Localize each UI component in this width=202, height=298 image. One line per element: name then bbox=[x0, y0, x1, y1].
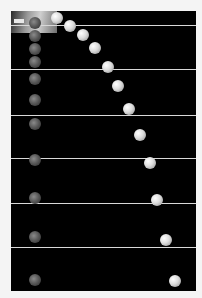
reference-line bbox=[11, 115, 196, 116]
dropped-ball bbox=[29, 30, 41, 42]
projected-ball bbox=[89, 42, 101, 54]
dropped-ball bbox=[29, 94, 41, 106]
projected-ball bbox=[77, 29, 89, 41]
projected-ball bbox=[151, 194, 163, 206]
dropped-ball bbox=[29, 56, 41, 68]
dropped-ball bbox=[29, 192, 41, 204]
reference-line bbox=[11, 247, 196, 248]
dropped-ball bbox=[29, 274, 41, 286]
projected-ball bbox=[144, 157, 156, 169]
dropped-ball bbox=[29, 231, 41, 243]
dropped-ball bbox=[29, 17, 41, 29]
projected-ball bbox=[169, 275, 181, 287]
projected-ball bbox=[102, 61, 114, 73]
projected-ball bbox=[134, 129, 146, 141]
projected-ball bbox=[51, 12, 63, 24]
projected-ball bbox=[160, 234, 172, 246]
dropped-ball bbox=[29, 118, 41, 130]
reference-line bbox=[11, 203, 196, 204]
launcher-label-mark bbox=[14, 19, 24, 23]
projected-ball bbox=[112, 80, 124, 92]
strobe-photo bbox=[11, 11, 196, 291]
projected-ball bbox=[123, 103, 135, 115]
dropped-ball bbox=[29, 43, 41, 55]
dropped-ball bbox=[29, 154, 41, 166]
projected-ball bbox=[64, 20, 76, 32]
dropped-ball bbox=[29, 73, 41, 85]
